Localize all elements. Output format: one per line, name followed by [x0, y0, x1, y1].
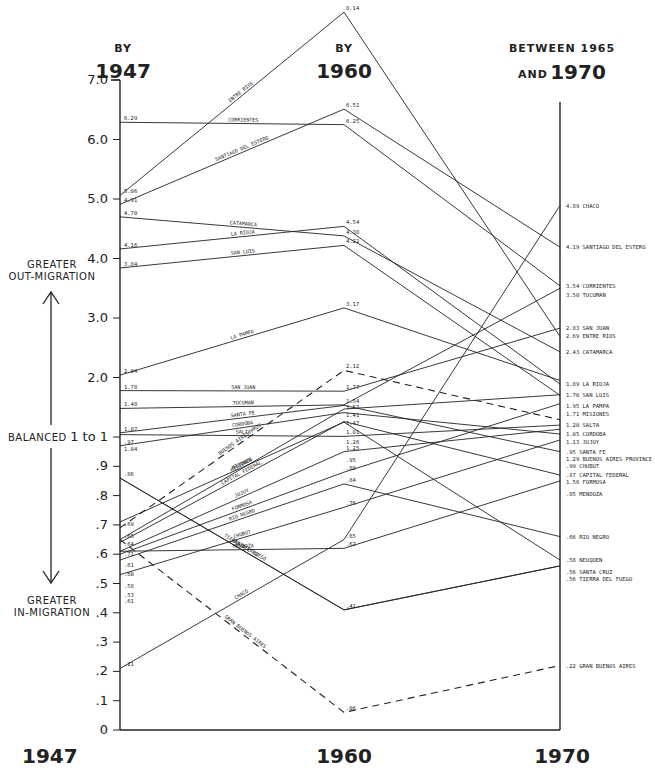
- value-label-1960-santiago-del-estero: 6.51: [346, 102, 359, 108]
- end-label-rio-negro: .66 RIO NEGRO: [566, 534, 609, 540]
- series-name-gran-buenos-aires: GRAN BUENOS AIRES: [224, 613, 268, 649]
- header-1960-small: BY: [335, 42, 353, 55]
- end-label-chubut: .99 CHUBUT: [566, 463, 600, 469]
- value-label-1960-capital-federal: 1.26: [346, 439, 359, 445]
- balanced-label: BALANCED: [8, 432, 67, 443]
- y-tick-label: .2: [96, 663, 108, 678]
- value-label-1960-formosa: .88: [346, 465, 356, 471]
- value-label-1960-gran-buenos-aires: .06: [346, 705, 356, 711]
- value-label-1947-san-juan: 1.78: [124, 384, 137, 390]
- value-label-1947-santiago-del-estero: 4.91: [124, 197, 137, 203]
- y-tick-label: 4.0: [87, 251, 108, 266]
- series-line-san-juan: [120, 328, 560, 391]
- series-line-neuquen: [120, 422, 560, 560]
- value-label-1960-tucuman: 1.54: [346, 398, 360, 404]
- value-label-1960-corrientes: 6.25: [346, 118, 359, 124]
- y-tick-label: .9: [96, 458, 108, 473]
- series-line-la-pampa: [120, 308, 560, 381]
- value-label-1960-san-juan: 1.77: [346, 384, 359, 390]
- end-label-san-luis: 1.70 SAN LUIS: [566, 392, 609, 398]
- series-line-capital-federal: [120, 422, 560, 543]
- value-label-1960-salta: 1.01: [346, 429, 359, 435]
- end-label-formosa: 1.56 FORMOSA: [566, 479, 606, 485]
- column-header-1960: BY 1960: [316, 42, 372, 83]
- y-tick-label: .4: [96, 605, 108, 620]
- y-tick-label: .5: [96, 576, 108, 591]
- end-label-buenos-aires-prov: 1.29 BUENOS AIRES PROVINCE: [566, 456, 652, 462]
- series-line-santa-cruz: [120, 478, 560, 610]
- value-label-1960-catamarca: 4.38: [346, 229, 359, 235]
- y-tick-label: 7.0: [87, 72, 108, 87]
- series-line-chaco: [120, 206, 560, 669]
- y-tick-label: .7: [96, 517, 108, 532]
- y-tick-label: 3.0: [87, 310, 108, 325]
- end-label-mendoza: .85 MENDOZA: [566, 491, 603, 497]
- y-tick-label: .6: [96, 546, 108, 561]
- value-label-1960-neuquen: 1.25: [346, 445, 359, 451]
- in-migration-label-1: GREATER: [27, 595, 77, 606]
- value-label-1960-santa-cruz: .41: [346, 603, 356, 609]
- value-label-1960-la-pampa: 3.17: [346, 301, 359, 307]
- header-1960-big: 1960: [316, 59, 372, 83]
- series-line-la-rioja: [120, 226, 560, 384]
- out-migration-label-2: OUT-MIGRATION: [9, 271, 96, 282]
- end-label-santa-fe: .95 SANTA FE: [566, 449, 606, 455]
- value-label-1947-neuquen: .71: [124, 551, 134, 557]
- end-label-tucuman: 3.50 TUCUMAN: [566, 292, 606, 298]
- value-label-1947-la-pampa: 2.04: [124, 368, 138, 374]
- series-line-tierra-del-fuego: [120, 478, 560, 610]
- end-labels-layer: 2.69 ENTRE RIOS3.54 CORRIENTES4.19 SANTI…: [566, 203, 652, 669]
- end-label-corrientes: 3.54 CORRIENTES: [566, 283, 616, 289]
- value-label-1947-capital-federal: .64: [124, 541, 135, 547]
- value-label-1960-la-rioja: 4.54: [346, 219, 360, 225]
- value-label-1947-santa-fe: 1.07: [124, 426, 137, 432]
- value-label-1947-mendoza: .61: [124, 598, 134, 604]
- end-label-catamarca: 2.43 CATAMARCA: [566, 349, 613, 355]
- in-migration-label-2: IN-MIGRATION: [14, 607, 90, 618]
- end-label-salta: 1.20 SALTA: [566, 422, 600, 428]
- header-1970-small: BETWEEN 1965: [509, 42, 615, 55]
- end-label-la-pampa: 1.95 LA PAMPA: [566, 403, 610, 409]
- series-name-corrientes: CORRIENTES: [228, 116, 258, 122]
- y-tick-label-balance: 1 to 1: [70, 429, 108, 444]
- end-label-santiago-del-estero: 4.19 SANTIAGO DEL ESTERO: [566, 244, 645, 250]
- header-1970-prefix: AND: [518, 68, 548, 81]
- column-header-1970: BETWEEN 1965 AND 1970: [509, 42, 615, 84]
- end-label-tierra-del-fuego: .56 TIERRA DEL FUEGO: [566, 576, 632, 582]
- y-tick-label: .1: [96, 693, 108, 708]
- value-label-1960-santa-fe: 1.53: [346, 404, 359, 410]
- value-label-1947-salta: 1.04: [124, 446, 138, 452]
- value-label-1947-corrientes: 6.29: [124, 115, 137, 121]
- value-label-1960-misiones: 1.47: [346, 420, 359, 426]
- series-line-mendoza: [120, 481, 560, 551]
- value-label-1947-la-rioja: 4.16: [124, 242, 137, 248]
- value-label-1947-san-luis: 3.84: [124, 261, 138, 267]
- value-label-1947-misiones: .65: [124, 533, 134, 539]
- value-label-1960-jujuy: .95: [346, 457, 356, 463]
- series-line-formosa: [120, 404, 560, 555]
- value-label-1947-rio-negro: .58: [124, 583, 134, 589]
- value-label-1960-entre-rios: 8.14: [346, 5, 360, 11]
- series-line-buenos-aires-prov: [120, 370, 560, 527]
- series-name-tucuman: TUCUMAN: [233, 399, 254, 405]
- value-label-1947-chaco: .21: [124, 661, 134, 667]
- value-label-1947-jujuy: .61: [124, 562, 134, 568]
- y-tick-label: 2.0: [87, 370, 108, 385]
- end-label-neuquen: .58 NEUQUEN: [566, 557, 602, 563]
- end-label-santa-cruz: .56 SANTA CRUZ: [566, 569, 613, 575]
- out-migration-label-1: GREATER: [27, 259, 77, 270]
- value-label-1960-chaco: .65: [346, 533, 356, 539]
- value-label-1960-mendoza: .62: [346, 541, 356, 547]
- value-label-1960-chubut: .76: [346, 500, 356, 506]
- series-name-santiago-del-estero: SANTIAGO DEL ESTERO: [214, 134, 269, 162]
- migration-ratio-chart: BY 1947 BY 1960 BETWEEN 1965 AND 1970 7.…: [0, 0, 655, 774]
- series-name-san-juan: SAN JUAN: [231, 384, 255, 390]
- value-label-1947-entre-rios: 5.06: [124, 188, 137, 194]
- value-label-1947-tucuman: 1.48: [124, 401, 137, 407]
- end-label-capital-federal: .87 CAPITAL FEDERAL: [566, 472, 630, 478]
- value-labels-layer: ENTRE RIOS5.068.14CORRIENTES6.296.25SANT…: [124, 5, 360, 711]
- y-tick-label: .8: [96, 488, 108, 503]
- value-label-1960-buenos-aires-prov: 2.12: [346, 363, 359, 369]
- value-label-1960-rio-negro: .84: [346, 477, 357, 483]
- series-line-salta: [120, 425, 560, 436]
